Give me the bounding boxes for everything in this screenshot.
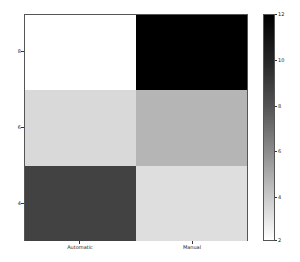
- y-tick-mark-8: [21, 51, 24, 52]
- cell-manual-4: [136, 166, 247, 241]
- y-tick-label-6: 6: [0, 124, 21, 130]
- colorbar-tick-mark-8: [275, 106, 277, 107]
- colorbar-tick-label-6: 6: [278, 148, 281, 154]
- colorbar-tick-label-2: 2: [278, 237, 281, 243]
- colorbar-tick-label-4: 4: [278, 194, 281, 200]
- heatmap-plot-area: [24, 14, 248, 241]
- colorbar-tick-label-8: 8: [278, 103, 281, 109]
- cell-automatic-4: [25, 166, 136, 241]
- cell-automatic-8: [25, 15, 136, 90]
- colorbar: [263, 14, 275, 241]
- x-tick-label-automatic: Automatic: [50, 244, 110, 250]
- colorbar-tick-label-10: 10: [278, 57, 284, 63]
- y-tick-mark-4: [21, 203, 24, 204]
- cell-manual-8: [136, 15, 247, 90]
- cell-automatic-6: [25, 90, 136, 166]
- colorbar-tick-mark-4: [275, 197, 277, 198]
- colorbar-tick-mark-12: [275, 14, 277, 15]
- colorbar-tick-mark-10: [275, 60, 277, 61]
- colorbar-tick-mark-2: [275, 240, 277, 241]
- y-tick-mark-6: [21, 127, 24, 128]
- y-tick-label-8: 8: [0, 48, 21, 54]
- colorbar-tick-mark-6: [275, 151, 277, 152]
- y-tick-label-4: 4: [0, 200, 21, 206]
- colorbar-tick-label-12: 12: [278, 11, 284, 17]
- x-tick-label-manual: Manual: [162, 244, 222, 250]
- cell-manual-6: [136, 90, 247, 166]
